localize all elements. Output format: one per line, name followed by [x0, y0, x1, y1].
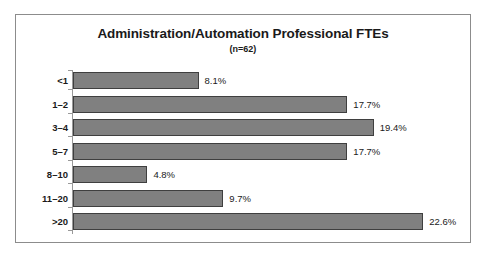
y-axis-tick	[68, 207, 72, 208]
y-axis-tick	[68, 70, 72, 71]
category-label: >20	[52, 213, 68, 230]
y-axis-tick	[68, 160, 72, 161]
bar-value-label: 22.6%	[429, 213, 456, 230]
y-axis-tick	[68, 113, 72, 114]
bar-row: 5–717.7%	[16, 143, 471, 167]
bar-row: <18.1%	[16, 72, 471, 96]
bar-value-label: 19.4%	[380, 119, 407, 136]
bar[interactable]	[73, 190, 223, 207]
category-label: 5–7	[52, 143, 68, 160]
y-axis-tick	[68, 89, 72, 90]
bar-value-label: 17.7%	[353, 143, 380, 160]
bar-row: 11–209.7%	[16, 190, 471, 214]
bar-row: >2022.6%	[16, 213, 471, 237]
category-label: 3–4	[52, 119, 68, 136]
bar[interactable]	[73, 119, 374, 136]
bar-value-label: 8.1%	[205, 72, 227, 89]
y-axis-tick	[68, 183, 72, 184]
bar-value-label: 9.7%	[229, 190, 251, 207]
category-label: 8–10	[47, 166, 68, 183]
category-label: <1	[57, 72, 68, 89]
category-label: 1–2	[52, 96, 68, 113]
bar[interactable]	[73, 166, 147, 183]
bar[interactable]	[73, 96, 347, 113]
bar-value-label: 4.8%	[153, 166, 175, 183]
bar[interactable]	[73, 143, 347, 160]
bar-value-label: 17.7%	[353, 96, 380, 113]
chart-frame: Administration/Automation Professional F…	[15, 14, 471, 243]
bar-row: 1–217.7%	[16, 96, 471, 120]
bar[interactable]	[73, 213, 423, 230]
bar-row: 8–104.8%	[16, 166, 471, 190]
y-axis-tick	[68, 136, 72, 137]
plot-area: <18.1%1–217.7%3–419.4%5–717.7%8–104.8%11…	[16, 15, 471, 243]
category-label: 11–20	[42, 190, 68, 207]
bar[interactable]	[73, 72, 199, 89]
bar-row: 3–419.4%	[16, 119, 471, 143]
y-axis-tick	[68, 230, 72, 231]
